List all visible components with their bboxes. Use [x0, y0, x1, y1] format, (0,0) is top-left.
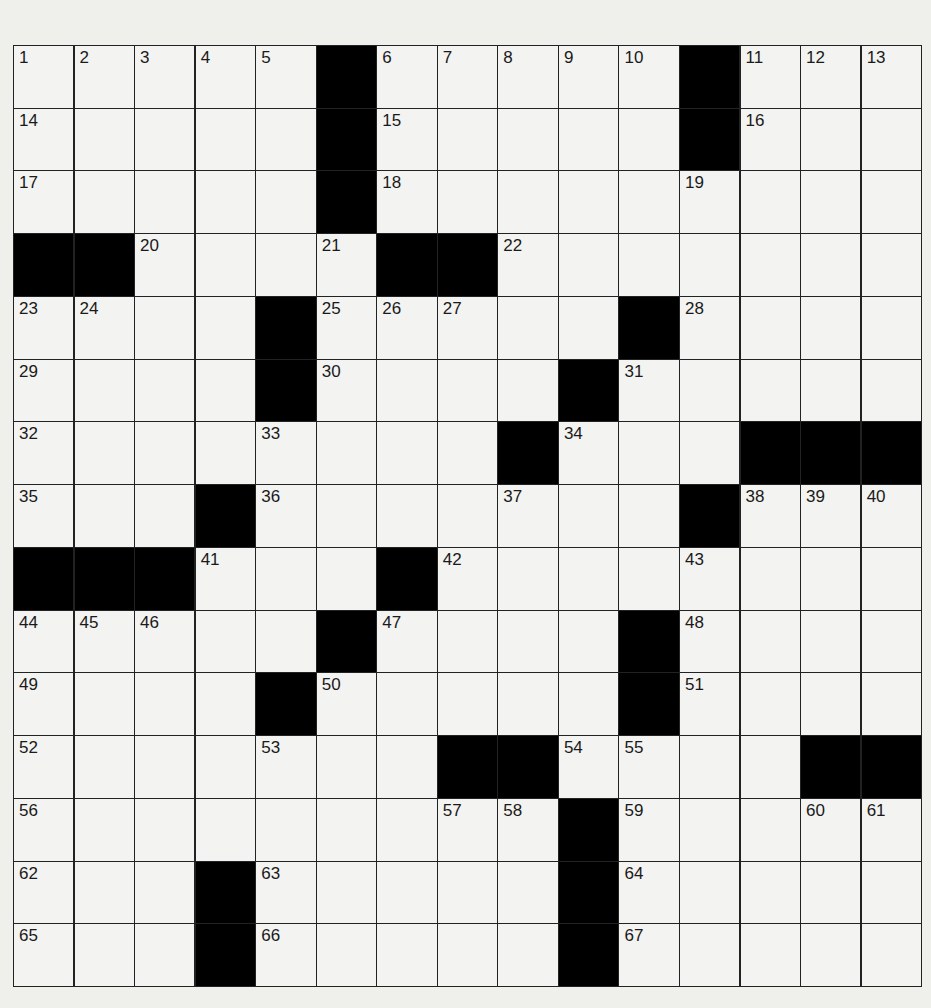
grid-cell[interactable] — [862, 548, 921, 610]
grid-cell[interactable] — [862, 862, 921, 924]
grid-cell[interactable]: 7 — [438, 46, 497, 108]
grid-cell[interactable] — [498, 297, 557, 359]
grid-cell[interactable] — [862, 924, 921, 986]
grid-cell[interactable] — [862, 109, 921, 171]
grid-cell[interactable]: 62 — [14, 862, 73, 924]
grid-cell[interactable] — [801, 924, 860, 986]
grid-cell[interactable] — [801, 234, 860, 296]
grid-cell[interactable] — [619, 234, 678, 296]
grid-cell[interactable]: 63 — [256, 862, 315, 924]
grid-cell[interactable]: 57 — [438, 799, 497, 861]
grid-cell[interactable] — [438, 862, 497, 924]
grid-cell[interactable]: 2 — [75, 46, 134, 108]
grid-cell[interactable] — [559, 109, 618, 171]
grid-cell[interactable] — [619, 548, 678, 610]
grid-cell[interactable]: 49 — [14, 673, 73, 735]
grid-cell[interactable] — [196, 234, 255, 296]
grid-cell[interactable] — [498, 360, 557, 422]
grid-cell[interactable]: 21 — [317, 234, 376, 296]
grid-cell[interactable]: 15 — [377, 109, 436, 171]
grid-cell[interactable] — [741, 611, 800, 673]
grid-cell[interactable]: 58 — [498, 799, 557, 861]
grid-cell[interactable] — [619, 109, 678, 171]
grid-cell[interactable]: 44 — [14, 611, 73, 673]
grid-cell[interactable]: 65 — [14, 924, 73, 986]
grid-cell[interactable] — [196, 171, 255, 233]
grid-cell[interactable]: 56 — [14, 799, 73, 861]
grid-cell[interactable]: 12 — [801, 46, 860, 108]
grid-cell[interactable] — [377, 924, 436, 986]
grid-cell[interactable] — [741, 297, 800, 359]
grid-cell[interactable]: 42 — [438, 548, 497, 610]
grid-cell[interactable]: 35 — [14, 485, 73, 547]
grid-cell[interactable]: 39 — [801, 485, 860, 547]
grid-cell[interactable] — [75, 799, 134, 861]
grid-cell[interactable]: 24 — [75, 297, 134, 359]
grid-cell[interactable] — [256, 171, 315, 233]
grid-cell[interactable]: 41 — [196, 548, 255, 610]
grid-cell[interactable] — [256, 548, 315, 610]
grid-cell[interactable] — [862, 673, 921, 735]
grid-cell[interactable]: 37 — [498, 485, 557, 547]
grid-cell[interactable]: 30 — [317, 360, 376, 422]
grid-cell[interactable] — [619, 422, 678, 484]
grid-cell[interactable] — [317, 736, 376, 798]
grid-cell[interactable] — [256, 234, 315, 296]
grid-cell[interactable]: 54 — [559, 736, 618, 798]
grid-cell[interactable] — [801, 548, 860, 610]
grid-cell[interactable]: 43 — [680, 548, 739, 610]
grid-cell[interactable] — [317, 422, 376, 484]
grid-cell[interactable] — [196, 297, 255, 359]
grid-cell[interactable] — [680, 234, 739, 296]
grid-cell[interactable] — [619, 171, 678, 233]
grid-cell[interactable] — [196, 799, 255, 861]
grid-cell[interactable] — [438, 171, 497, 233]
grid-cell[interactable]: 36 — [256, 485, 315, 547]
grid-cell[interactable] — [75, 924, 134, 986]
grid-cell[interactable] — [75, 171, 134, 233]
grid-cell[interactable] — [741, 924, 800, 986]
grid-cell[interactable] — [135, 862, 194, 924]
grid-cell[interactable] — [741, 234, 800, 296]
grid-cell[interactable]: 67 — [619, 924, 678, 986]
grid-cell[interactable] — [741, 171, 800, 233]
grid-cell[interactable]: 16 — [741, 109, 800, 171]
grid-cell[interactable]: 6 — [377, 46, 436, 108]
grid-cell[interactable] — [317, 924, 376, 986]
grid-cell[interactable] — [196, 360, 255, 422]
grid-cell[interactable] — [741, 799, 800, 861]
grid-cell[interactable]: 46 — [135, 611, 194, 673]
grid-cell[interactable] — [741, 736, 800, 798]
grid-cell[interactable] — [75, 736, 134, 798]
grid-cell[interactable] — [377, 673, 436, 735]
grid-cell[interactable] — [801, 611, 860, 673]
grid-cell[interactable] — [317, 548, 376, 610]
grid-cell[interactable] — [619, 485, 678, 547]
grid-cell[interactable]: 8 — [498, 46, 557, 108]
grid-cell[interactable]: 61 — [862, 799, 921, 861]
grid-cell[interactable]: 17 — [14, 171, 73, 233]
grid-cell[interactable]: 28 — [680, 297, 739, 359]
grid-cell[interactable]: 3 — [135, 46, 194, 108]
grid-cell[interactable] — [741, 548, 800, 610]
grid-cell[interactable] — [438, 924, 497, 986]
grid-cell[interactable] — [196, 109, 255, 171]
grid-cell[interactable] — [680, 799, 739, 861]
grid-cell[interactable]: 27 — [438, 297, 497, 359]
grid-cell[interactable] — [135, 171, 194, 233]
grid-cell[interactable] — [801, 171, 860, 233]
grid-cell[interactable] — [75, 422, 134, 484]
grid-cell[interactable] — [135, 485, 194, 547]
grid-cell[interactable]: 64 — [619, 862, 678, 924]
grid-cell[interactable] — [680, 360, 739, 422]
grid-cell[interactable]: 48 — [680, 611, 739, 673]
grid-cell[interactable]: 19 — [680, 171, 739, 233]
grid-cell[interactable]: 9 — [559, 46, 618, 108]
grid-cell[interactable] — [135, 297, 194, 359]
grid-cell[interactable] — [135, 673, 194, 735]
grid-cell[interactable]: 52 — [14, 736, 73, 798]
grid-cell[interactable] — [680, 736, 739, 798]
grid-cell[interactable] — [498, 924, 557, 986]
grid-cell[interactable] — [559, 611, 618, 673]
grid-cell[interactable]: 29 — [14, 360, 73, 422]
